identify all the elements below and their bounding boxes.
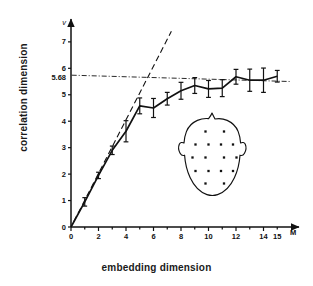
electrode-dot	[194, 170, 196, 172]
x-tick-label: 14	[259, 232, 268, 241]
x-tick-label: 6	[151, 232, 155, 241]
y-axis-symbol: v	[62, 18, 67, 27]
correlation-dimension-plot: 01234567 0246810121415 v M 5.68	[0, 0, 313, 286]
plot-axes	[71, 19, 299, 227]
head-outline	[179, 113, 246, 195]
data-curve	[71, 76, 277, 227]
y-tick-label: 7	[62, 37, 66, 46]
y-tick-label: 6	[62, 64, 66, 73]
y-tick-label: 0	[62, 223, 66, 232]
electrode-dot	[204, 156, 206, 158]
y-tick-label: 2	[62, 170, 66, 179]
x-tick-label: 8	[179, 232, 183, 241]
electrode-dot	[223, 130, 225, 132]
x-tick-label: 15	[273, 232, 281, 241]
x-tick-label: 0	[69, 232, 73, 241]
figure-container: correlation dimension embedding dimensio…	[0, 0, 313, 286]
error-bars	[82, 68, 279, 206]
electrode-dot	[232, 170, 234, 172]
electrode-dot	[232, 143, 234, 145]
y-tick-label: 3	[62, 143, 66, 152]
electrode-dot	[220, 170, 222, 172]
x-tick-label: 4	[124, 232, 129, 241]
x-axis-ticks: 0246810121415	[69, 227, 282, 241]
x-axis-symbol: M	[290, 228, 296, 237]
eeg-electrode-montage-inset	[179, 113, 246, 195]
electrode-dot	[207, 170, 209, 172]
electrode-dot	[220, 143, 222, 145]
electrode-dot	[235, 156, 237, 158]
y-axis-ticks: 01234567	[62, 37, 71, 231]
electrode-dot	[204, 182, 206, 184]
saturation-value-label: 5.68	[51, 73, 66, 82]
electrode-dot	[207, 143, 209, 145]
electrode-dot	[194, 143, 196, 145]
electrode-dot	[204, 130, 206, 132]
y-tick-label: 1	[62, 196, 66, 205]
x-tick-label: 2	[96, 232, 100, 241]
y-tick-label: 4	[62, 117, 67, 126]
electrode-dots	[191, 130, 237, 184]
x-tick-label: 12	[232, 232, 240, 241]
y-tick-label: 5	[62, 90, 66, 99]
electrode-dot	[223, 156, 225, 158]
electrode-dot	[223, 182, 225, 184]
x-tick-label: 10	[204, 232, 212, 241]
electrode-dot	[191, 156, 193, 158]
